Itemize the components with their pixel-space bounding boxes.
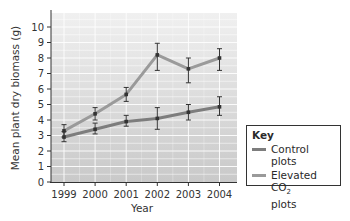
legend-item-elevated: Elevated CO2 plots <box>252 169 335 210</box>
y-tick-label: 9 <box>38 37 44 48</box>
data-point <box>218 105 222 109</box>
y-tick-label: 4 <box>38 115 44 126</box>
y-tick-label: 10 <box>31 22 44 33</box>
x-tick-label: 2000 <box>82 189 107 200</box>
data-point <box>187 67 191 71</box>
legend-label-elevated: Elevated CO2 plots <box>271 169 335 210</box>
y-tick-label: 3 <box>38 130 44 141</box>
data-point <box>187 110 191 114</box>
data-point <box>93 128 97 132</box>
data-point <box>124 93 128 97</box>
x-tick-label: 1999 <box>51 189 76 200</box>
data-point <box>156 117 160 121</box>
data-point <box>218 56 222 60</box>
y-tick-label: 8 <box>38 53 44 64</box>
y-tick-label: 0 <box>38 177 44 188</box>
y-tick-label: 5 <box>38 99 44 110</box>
legend-label-control: Control plots <box>271 143 335 167</box>
legend-title: Key <box>252 129 335 141</box>
y-tick-label: 2 <box>38 146 44 157</box>
y-tick-label: 6 <box>38 84 44 95</box>
y-axis-title: Mean plant dry biomass (g) <box>9 26 21 170</box>
legend-swatch-elevated <box>252 174 266 177</box>
legend-item-control: Control plots <box>252 143 335 167</box>
data-point <box>62 135 66 139</box>
data-point <box>93 112 97 116</box>
data-point <box>124 120 128 124</box>
x-tick-label: 2004 <box>207 189 232 200</box>
y-tick-label: 7 <box>38 68 44 79</box>
x-tick-label: 2002 <box>145 189 170 200</box>
y-tick-label: 1 <box>38 161 44 172</box>
data-point <box>156 53 160 57</box>
plot-background <box>51 13 237 182</box>
x-tick-label: 2003 <box>176 189 201 200</box>
legend: Key Control plots Elevated CO2 plots <box>246 125 341 186</box>
legend-swatch-control <box>252 148 266 151</box>
x-axis-title: Year <box>130 202 154 214</box>
x-tick-label: 2001 <box>113 189 138 200</box>
